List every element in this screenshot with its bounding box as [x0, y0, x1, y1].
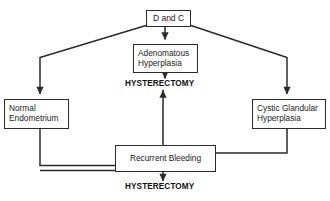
label-hysterectomy-bottom: HYSTERECTOMY — [124, 182, 195, 191]
node-d-and-c-label: D and C — [153, 13, 184, 23]
node-d-and-c[interactable]: D and C — [146, 10, 191, 27]
node-adenomatous-hyperplasia[interactable]: Adenomatous Hyperplasia — [133, 44, 198, 73]
edge-cystic-to-recurrent — [214, 129, 287, 153]
node-recurrent-bleeding-label: Recurrent Bleeding — [130, 154, 201, 164]
node-adenomatous-hyperplasia-label-line2: Hyperplasia — [138, 59, 182, 69]
label-hysterectomy-top: HYSTERECTOMY — [124, 79, 195, 88]
node-cystic-glandular-hyperplasia-label-line2: Hyperplasia — [257, 114, 301, 124]
flowchart-canvas: D and C Adenomatous Hyperplasia Normal E… — [0, 0, 330, 201]
node-normal-endometrium[interactable]: Normal Endometrium — [4, 99, 69, 129]
node-recurrent-bleeding[interactable]: Recurrent Bleeding — [115, 145, 216, 172]
node-normal-endometrium-label-line2: Endometrium — [9, 114, 58, 124]
edge-dandc-to-normal — [40, 26, 146, 58]
edge-normal-to-recurrent — [40, 129, 117, 166]
edge-dandc-to-cystic — [191, 26, 287, 58]
node-cystic-glandular-hyperplasia[interactable]: Cystic Glandular Hyperplasia — [252, 99, 326, 129]
